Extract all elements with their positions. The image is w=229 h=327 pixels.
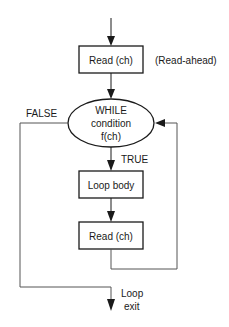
- false-label: FALSE: [26, 108, 57, 119]
- false-connector: [20, 123, 111, 300]
- loop-exit-label-line2: exit: [124, 301, 140, 312]
- while-line3: f(ch): [101, 131, 121, 142]
- while-condition-node: WHILE condition f(ch): [68, 99, 154, 147]
- loop-body-label: Loop body: [88, 180, 135, 191]
- arrow-body-to-read: [107, 198, 115, 222]
- read-ahead-note: (Read-ahead): [155, 55, 217, 66]
- loop-body-node: Loop body: [79, 171, 143, 198]
- while-line1: WHILE: [95, 105, 127, 116]
- loop-back-arrowhead: [155, 119, 165, 127]
- read-loop-label: Read (ch): [89, 231, 133, 242]
- read-initial-label: Read (ch): [89, 55, 133, 66]
- read-loop-node: Read (ch): [79, 222, 143, 249]
- flowchart-canvas: Read (ch) (Read-ahead) WHILE condition f…: [0, 0, 229, 327]
- read-initial-node: Read (ch): [79, 46, 143, 73]
- true-label: TRUE: [121, 154, 149, 165]
- while-line2: condition: [91, 118, 131, 129]
- arrow-while-to-body: [107, 147, 115, 171]
- entry-arrow: [107, 18, 115, 46]
- exit-arrowhead: [107, 299, 115, 311]
- loop-exit-label-line1: Loop: [121, 288, 144, 299]
- arrow-read-to-while: [107, 73, 115, 99]
